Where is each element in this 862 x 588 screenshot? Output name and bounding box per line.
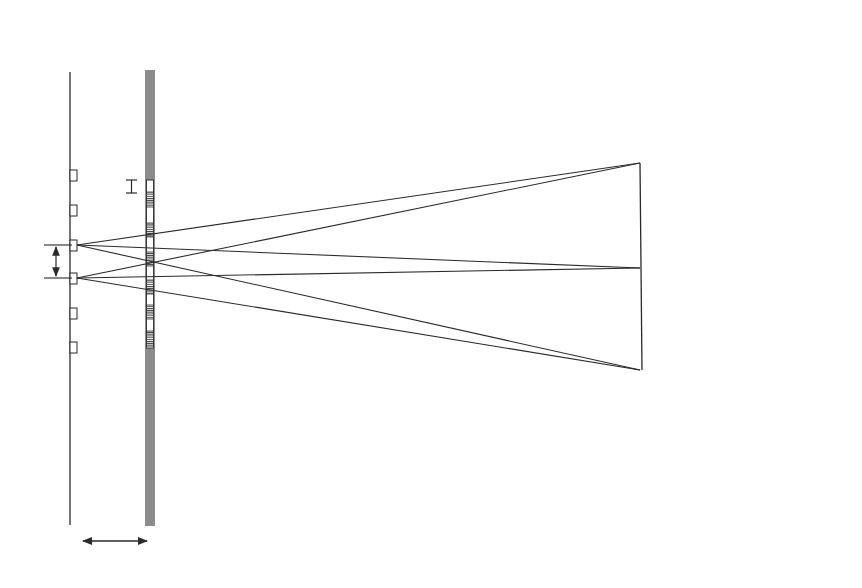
z-dimension — [0, 0, 862, 588]
